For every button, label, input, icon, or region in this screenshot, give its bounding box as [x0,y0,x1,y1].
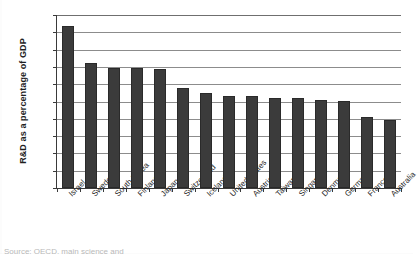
x-axis-category-labels: IsraelSwedenSouth KoreaFinlandJapanSwitz… [56,192,400,250]
y-axis-title: R&D as a percentage of GDP [18,16,28,186]
bar[interactable] [131,68,143,188]
bar[interactable] [223,96,235,188]
bar-slot [172,15,195,188]
bar[interactable] [85,63,97,188]
bar[interactable] [384,120,396,188]
bar[interactable] [177,88,189,188]
bar-slot [218,15,241,188]
bar[interactable] [62,26,74,188]
bar-slot [263,15,286,188]
bar[interactable] [269,98,281,188]
source-note-clipped: Source: OECD, main science and [4,248,154,254]
bar[interactable] [108,68,120,188]
bar-slot [378,15,401,188]
bar[interactable] [154,69,166,188]
bar-slot [309,15,332,188]
bar-slot [241,15,264,188]
bar-slot [149,15,172,188]
bar[interactable] [338,101,350,188]
bar[interactable] [246,96,258,188]
bar-slot [195,15,218,188]
bar[interactable] [361,117,373,188]
bar-slot [103,15,126,188]
bar-slot [286,15,309,188]
bar-slot [332,15,355,188]
bar-slot [126,15,149,188]
bar[interactable] [200,93,212,188]
bar[interactable] [292,98,304,188]
bar-slot [57,15,80,188]
bar[interactable] [315,100,327,188]
bars-group [57,15,401,188]
bar-slot [355,15,378,188]
bar-slot [80,15,103,188]
plot-area [56,15,401,189]
